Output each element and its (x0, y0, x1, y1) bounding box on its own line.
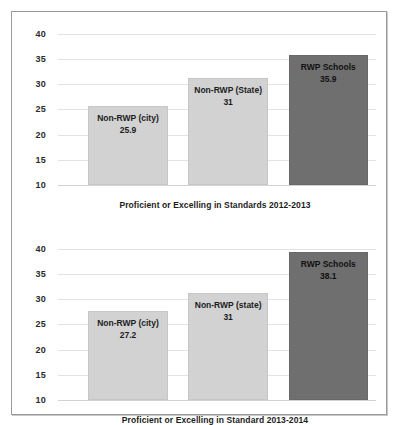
y-tick-label: 30 (36, 79, 46, 89)
y-tick-label: 25 (36, 104, 46, 114)
bar-non-rwp-state[interactable]: Non-RWP (State) 31 (188, 78, 268, 185)
y-tick-label: 10 (36, 395, 46, 405)
gridline-baseline (58, 185, 376, 186)
bar-rwp-schools[interactable]: RWP Schools 38.1 (289, 252, 369, 400)
bar-fill (88, 311, 168, 400)
y-axis-top: 40 35 30 25 20 15 10 (12, 30, 52, 185)
bar-non-rwp-city[interactable]: Non-RWP (city) 27.2 (88, 311, 168, 400)
figure-frame: 40 35 30 25 20 15 10 (11, 11, 387, 415)
bar-rwp-schools[interactable]: RWP Schools 35.9 (289, 55, 369, 185)
y-tick-label: 25 (36, 319, 46, 329)
bar-group-top: Non-RWP (city) 25.9 Non-RWP (State) 31 (58, 30, 376, 185)
y-tick-label: 35 (36, 54, 46, 64)
chart-panel-2012-2013: 40 35 30 25 20 15 10 (12, 12, 386, 213)
y-tick-label: 30 (36, 294, 46, 304)
bar-fill (289, 252, 369, 400)
y-tick-label: 40 (36, 29, 46, 39)
bar-fill (289, 55, 369, 185)
figure-container: 40 35 30 25 20 15 10 (0, 0, 401, 425)
y-tick-label: 35 (36, 269, 46, 279)
y-axis-bottom: 40 35 30 25 20 15 10 (12, 245, 52, 400)
chart-caption-top: Proficient or Excelling in Standards 201… (52, 200, 378, 210)
bar-non-rwp-city[interactable]: Non-RWP (city) 25.9 (88, 106, 168, 185)
y-tick-label: 40 (36, 244, 46, 254)
gridline-baseline (58, 400, 376, 401)
bar-fill (188, 78, 268, 185)
plot-area-bottom: Non-RWP (city) 27.2 Non-RWP (state) 31 (58, 245, 376, 400)
plot-area-top: Non-RWP (city) 25.9 Non-RWP (State) 31 (58, 30, 376, 185)
bar-fill (188, 293, 268, 400)
plot-wrap-top: 40 35 30 25 20 15 10 (12, 30, 386, 185)
bar-non-rwp-state[interactable]: Non-RWP (state) 31 (188, 293, 268, 400)
y-tick-label: 20 (36, 345, 46, 355)
chart-panel-2013-2014: 40 35 30 25 20 15 10 (12, 213, 386, 414)
y-tick-label: 15 (36, 155, 46, 165)
y-tick-label: 20 (36, 130, 46, 140)
bar-fill (88, 106, 168, 185)
y-tick-label: 15 (36, 370, 46, 380)
chart-caption-bottom: Proficient or Excelling in Standard 2013… (52, 415, 378, 425)
y-tick-label: 10 (36, 180, 46, 190)
plot-wrap-bottom: 40 35 30 25 20 15 10 (12, 245, 386, 400)
bar-group-bottom: Non-RWP (city) 27.2 Non-RWP (state) 31 (58, 245, 376, 400)
